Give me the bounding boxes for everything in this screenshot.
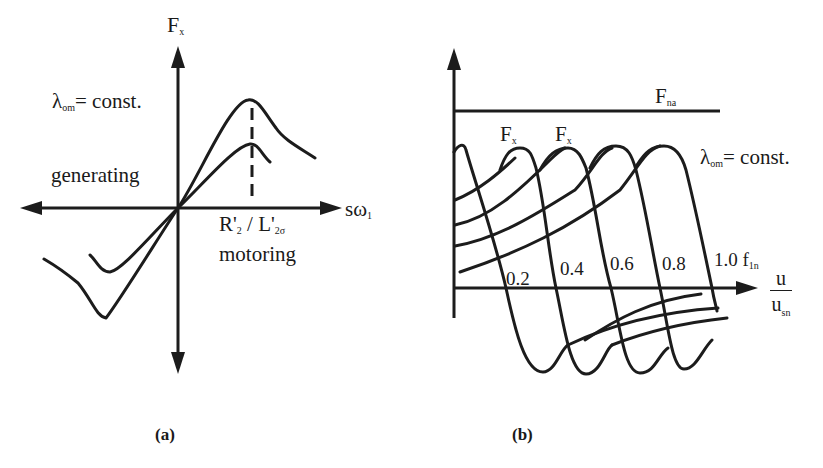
panel-a-param-label: λom= const. [52, 91, 142, 113]
panel-b-freq-label-0.8: 0.8 [662, 254, 686, 273]
panel-b-rising-curve-1 [455, 158, 515, 200]
panel-a-y-arrow-down-icon [171, 352, 185, 374]
panel-b-param-label: λom= const. [700, 147, 790, 169]
panel-b-caption: (b) [512, 425, 533, 445]
panel-b-y-arrow-up-icon [447, 48, 461, 70]
panel-b-freq-label-1.0: 1.0 f1n [714, 250, 759, 271]
panel-a-motoring-label: motoring [219, 244, 296, 265]
figure-canvas [0, 0, 823, 468]
panel-a-x-axis-label: sω1 [345, 199, 372, 221]
panel-b-fx-label-1: Fx [500, 124, 517, 146]
panel-a-caption: (a) [155, 425, 175, 445]
panel-b-x-arrow-right-icon [736, 281, 758, 295]
panel-b-fna-label: Fna [655, 86, 676, 108]
panel-b-fx-label-2: Fx [555, 124, 572, 146]
panel-b-freq-curve-0.4 [500, 148, 612, 374]
fraction-bar [770, 290, 792, 291]
panel-a-x-arrow-left-icon [20, 201, 42, 215]
panel-b-plot [447, 48, 758, 374]
panel-b-lower-branch-2 [568, 308, 718, 345]
panel-b-x-axis-label: u usn [770, 268, 792, 318]
panel-b-freq-curve-0.8 [590, 146, 712, 369]
panel-a-x-arrow-right-icon [320, 201, 342, 215]
panel-b-freq-label-0.4: 0.4 [560, 259, 584, 278]
panel-b-freq-label-0.2: 0.2 [506, 269, 530, 288]
panel-a-generating-label: generating [51, 165, 140, 186]
panel-b-freq-label-0.6: 0.6 [610, 254, 634, 273]
panel-a-y-arrow-up-icon [171, 46, 185, 68]
panel-a-breakpoint-label: R'2 / L'2σ [219, 214, 285, 236]
panel-a-y-axis-label: Fx [167, 14, 184, 37]
